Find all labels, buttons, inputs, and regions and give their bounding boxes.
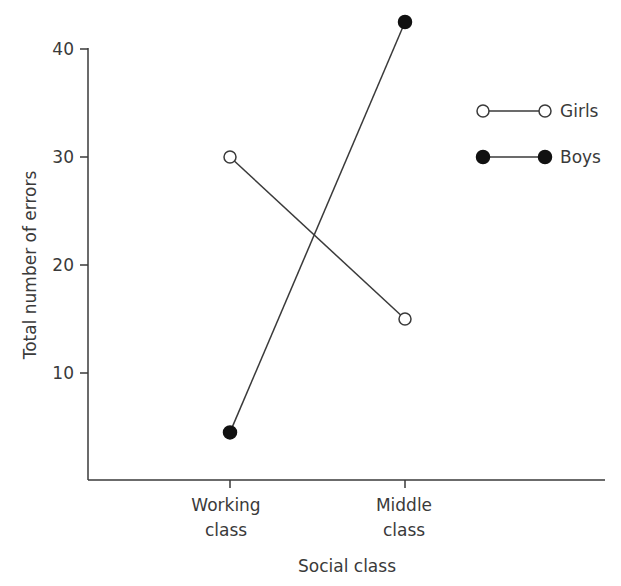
legend: GirlsBoys: [477, 101, 602, 167]
series-line: [230, 22, 405, 432]
data-series: [224, 16, 412, 439]
y-axis-ticks: 10203040: [52, 39, 88, 383]
legend-label: Boys: [560, 147, 601, 167]
line-chart: 10203040 WorkingclassMiddleclass Total n…: [0, 0, 621, 586]
legend-item-girls: Girls: [477, 101, 599, 121]
x-axis-title: Social class: [298, 556, 396, 576]
legend-marker: [539, 151, 552, 164]
data-point-marker: [399, 16, 412, 29]
data-point-marker: [224, 426, 237, 439]
y-tick-label: 20: [52, 255, 74, 275]
legend-marker: [477, 151, 490, 164]
x-tick-label: Working: [191, 495, 260, 515]
data-point-marker: [399, 313, 411, 325]
y-tick-label: 40: [52, 39, 74, 59]
legend-marker: [477, 105, 489, 117]
series-line: [230, 157, 405, 319]
data-point-marker: [224, 151, 236, 163]
x-tick-label: Middle: [376, 495, 432, 515]
y-tick-label: 30: [52, 147, 74, 167]
x-axis-ticks: WorkingclassMiddleclass: [191, 480, 432, 540]
legend-item-boys: Boys: [477, 147, 602, 167]
y-axis-title: Total number of errors: [20, 171, 40, 361]
x-tick-label: class: [383, 520, 425, 540]
series-boys: [224, 16, 412, 439]
y-tick-label: 10: [52, 363, 74, 383]
legend-marker: [539, 105, 551, 117]
legend-label: Girls: [560, 101, 599, 121]
series-girls: [224, 151, 411, 325]
x-tick-label: class: [205, 520, 247, 540]
